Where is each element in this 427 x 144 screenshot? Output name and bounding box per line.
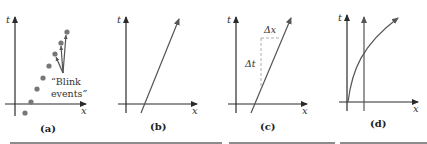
x-axis-label: x (81, 105, 87, 116)
t-axis-label: t (6, 14, 11, 25)
t-axis-label: t (338, 12, 343, 23)
annotation-text-line2: events” (51, 88, 87, 99)
x-axis-label: x (302, 105, 308, 116)
panel-b: t x (b) (117, 14, 198, 132)
caption-b: (b) (150, 121, 166, 132)
caption-a: (a) (40, 123, 56, 134)
caption-d: (d) (370, 118, 386, 129)
panel-c: t x Δx Δt (c) (227, 14, 308, 132)
caption-c: (c) (260, 121, 276, 132)
t-axis-label: t (117, 14, 122, 25)
t-axis-label: t (227, 14, 232, 25)
x-axis-label: x (413, 103, 419, 114)
annotation-text-line1: “Blink (51, 76, 81, 87)
spacetime-diagrams: t x “Blink events” (a) t x (b) (0, 0, 427, 144)
panel-d: t x (d) (338, 12, 419, 129)
delta-x-label: Δx (263, 24, 277, 35)
panel-a: t x “Blink events” (a) (5, 14, 87, 134)
x-axis-label: x (192, 105, 198, 116)
curved-worldline (348, 18, 398, 102)
worldline (141, 19, 179, 113)
delta-t-label: Δt (244, 58, 256, 69)
